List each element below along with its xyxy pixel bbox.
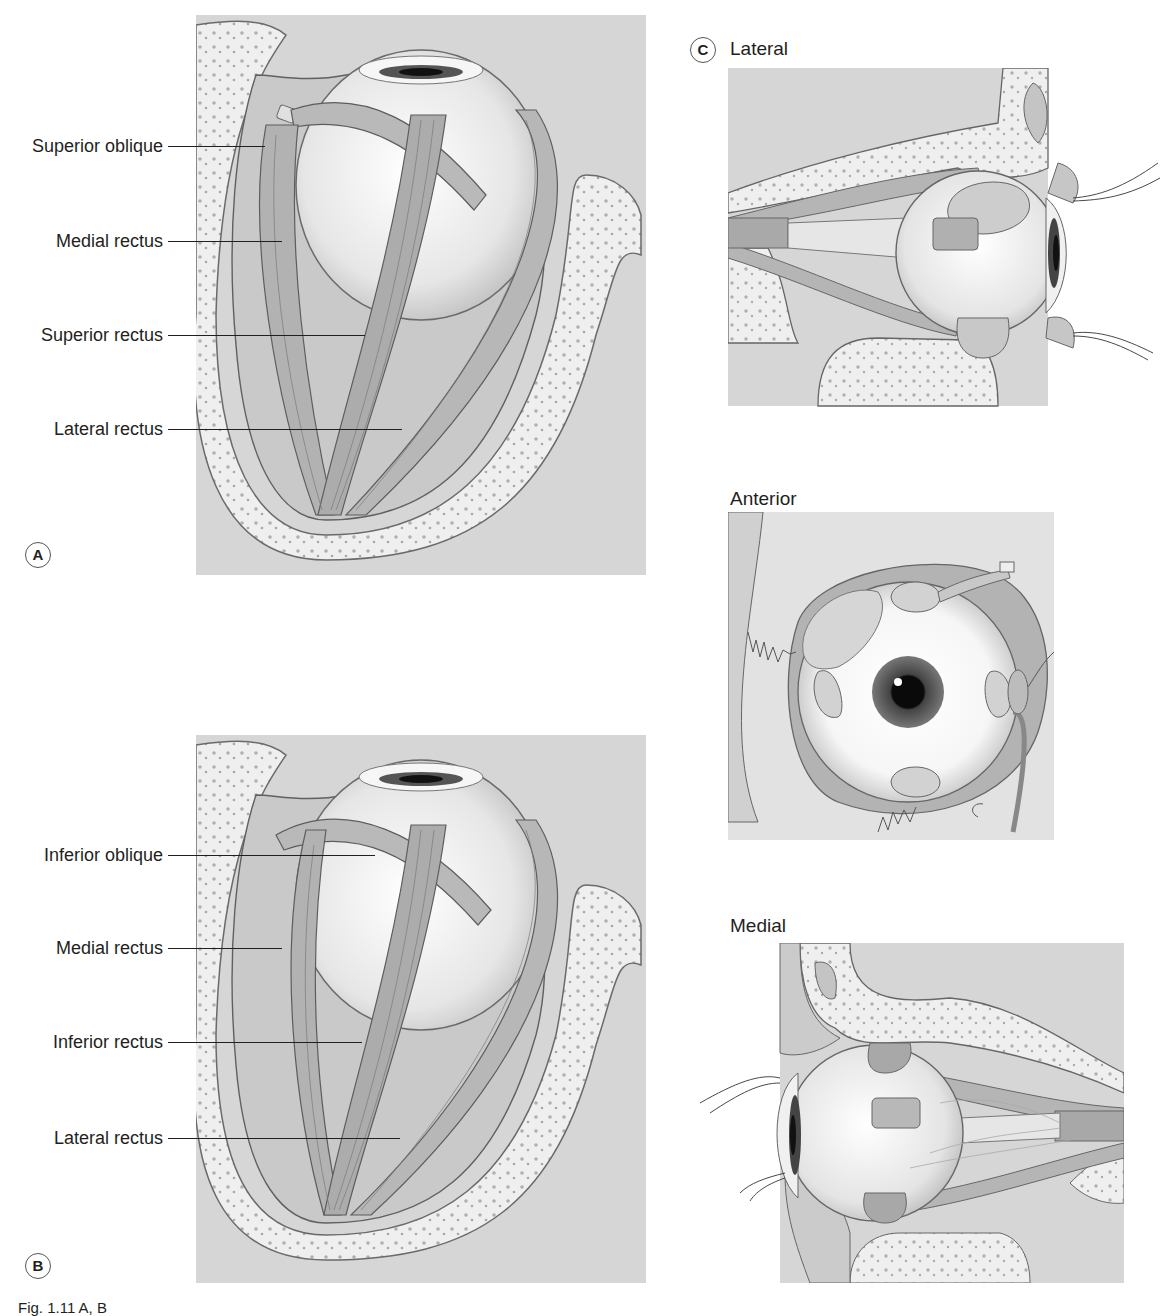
panel-b-illustration (196, 735, 646, 1283)
leader-line (168, 855, 375, 856)
panel-a-illustration (196, 15, 646, 575)
label-lateral-rectus: Lateral rectus (3, 419, 163, 439)
lateral-view-illustration (728, 68, 1164, 408)
label-superior-rectus: Superior rectus (3, 325, 163, 345)
leader-line (168, 1138, 400, 1139)
leader-line (168, 1042, 362, 1043)
panel-badge-c: C (690, 37, 716, 63)
label-inferior-oblique: Inferior oblique (3, 845, 163, 865)
panel-badge-b: B (25, 1253, 51, 1279)
leader-line (168, 335, 365, 336)
label-medial-rectus: Medial rectus (3, 231, 163, 251)
view-title-lateral: Lateral (730, 38, 788, 60)
label-superior-oblique: Superior oblique (3, 136, 163, 156)
leader-line (168, 429, 402, 430)
label-inferior-rectus: Inferior rectus (3, 1032, 163, 1052)
leader-line (168, 241, 282, 242)
medial-view-illustration (700, 943, 1124, 1283)
view-title-medial: Medial (730, 915, 786, 937)
panel-badge-a: A (25, 542, 51, 568)
label-lateral-rectus: Lateral rectus (3, 1128, 163, 1148)
label-medial-rectus: Medial rectus (3, 938, 163, 958)
figure-caption: Fig. 1.11 A, B (18, 1299, 107, 1316)
anterior-view-illustration (728, 512, 1056, 842)
leader-line (168, 948, 282, 949)
view-title-anterior: Anterior (730, 488, 797, 510)
leader-line (168, 146, 265, 147)
